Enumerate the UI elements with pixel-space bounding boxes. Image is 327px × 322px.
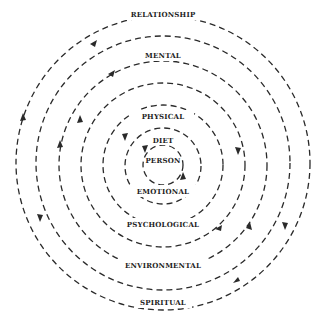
arrow-icon [233, 277, 240, 283]
arrow-icon [180, 172, 186, 180]
label-relationship: RELATIONSHIP [131, 10, 196, 19]
arrow-icon [37, 214, 43, 222]
arrow-icon [282, 222, 288, 230]
ring-relationship [59, 61, 267, 269]
arrow-icon [122, 133, 128, 141]
label-emotional: EMOTIONAL [137, 187, 189, 196]
concentric-wellness-diagram: RELATIONSHIP MENTAL PHYSICAL DIET PERSON… [0, 0, 327, 322]
label-diet: DIET [153, 136, 174, 145]
label-spiritual: SPIRITUAL [140, 298, 186, 307]
arrow-icon [142, 145, 148, 153]
arrow-icon [90, 40, 97, 47]
arrow-icon [235, 147, 241, 155]
label-physical: PHYSICAL [142, 112, 185, 121]
label-person: PERSON [145, 156, 181, 165]
arrow-icon [77, 115, 83, 123]
label-environmental: ENVIRONMENTAL [125, 261, 201, 270]
label-mental: MENTAL [145, 51, 181, 60]
label-psychological: PSYCHOLOGICAL [127, 220, 199, 229]
arrow-icon [20, 113, 26, 121]
ring-physical [103, 105, 223, 225]
ring-person [143, 145, 183, 185]
